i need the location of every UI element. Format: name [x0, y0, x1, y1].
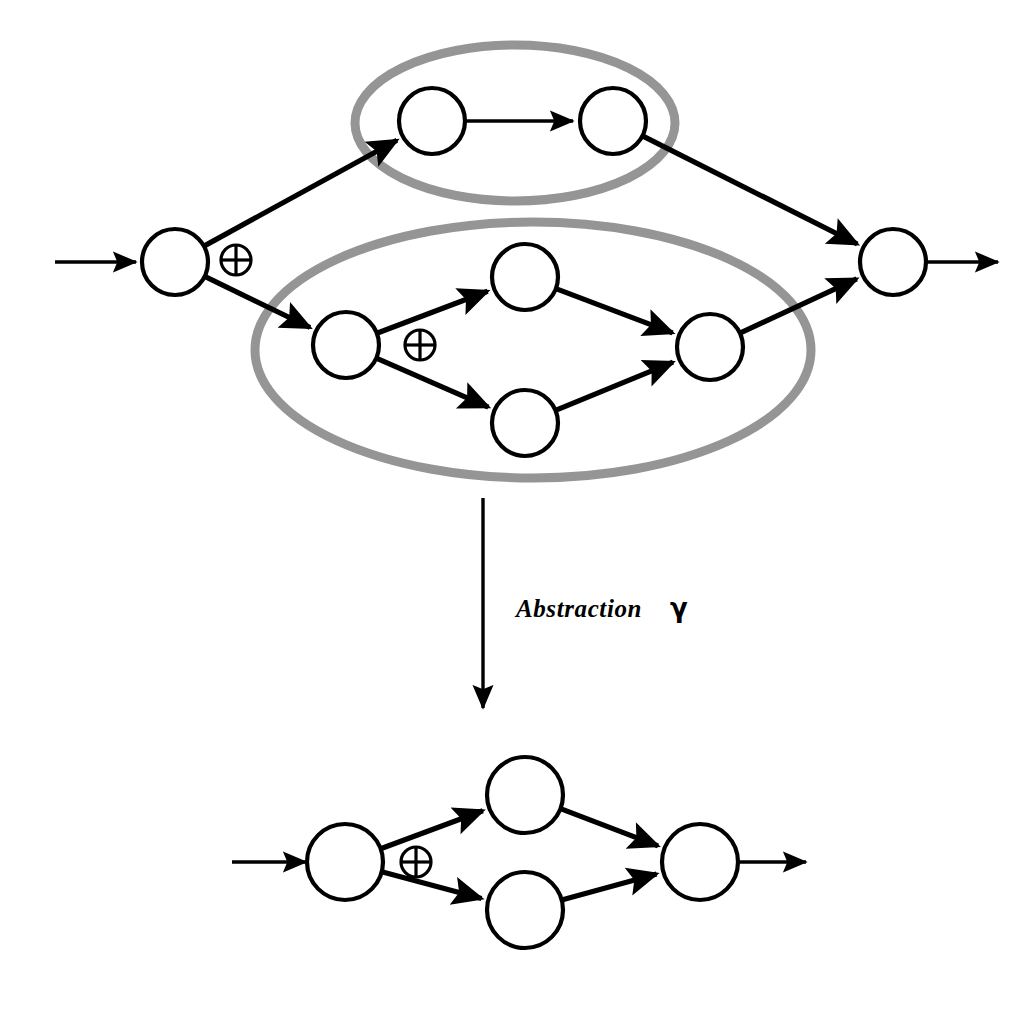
- abstract-graph-xor-markers: [401, 847, 431, 877]
- concrete-node-sub-source-n_b_src[interactable]: [313, 312, 379, 378]
- abstract-edge-a_dn-to-a_snk: [562, 874, 657, 900]
- concrete-node-task-n_b_up[interactable]: [492, 244, 558, 310]
- abstract-graph-nodes: [307, 757, 738, 948]
- abstract-node-sink-a_snk[interactable]: [662, 824, 738, 900]
- abstract-edge-a_src-to-a_dn: [382, 872, 482, 899]
- abstract-node-task-a_up[interactable]: [487, 757, 563, 833]
- abstract-node-task-a_dn[interactable]: [487, 872, 563, 948]
- concrete-xor-split-marker: [405, 330, 435, 360]
- concrete-node-task-n_t2[interactable]: [580, 88, 646, 154]
- concrete-edge-n_b_dn-to-n_b_jn: [556, 362, 673, 410]
- abstraction-gamma-symbol: γ: [670, 593, 688, 623]
- concrete-graph-nodes: [142, 88, 926, 456]
- abstract-xor-split-marker: [401, 847, 431, 877]
- abstraction-figure: Abstractionγ: [0, 0, 1036, 1016]
- concrete-node-sub-sink-n_b_jn[interactable]: [677, 314, 743, 380]
- abstract-edge-a_src-to-a_up: [381, 811, 483, 849]
- concrete-edge-n_b_jn-to-n_snk: [740, 279, 857, 333]
- concrete-edge-n_b_src-to-n_b_dn: [376, 358, 488, 407]
- abstract-node-source-a_src[interactable]: [307, 824, 383, 900]
- concrete-node-task-n_b_dn[interactable]: [492, 390, 558, 456]
- diagram-canvas: Abstractionγ: [0, 0, 1036, 1016]
- concrete-node-source-n_src[interactable]: [142, 229, 208, 295]
- concrete-edge-n_b_src-to-n_b_up: [377, 291, 488, 333]
- abstraction-label: Abstraction: [514, 595, 642, 622]
- abstract-edge-a_up-to-a_snk: [560, 809, 657, 846]
- concrete-node-sink-n_snk[interactable]: [860, 229, 926, 295]
- concrete-edge-n_b_up-to-n_b_jn: [556, 289, 673, 333]
- concrete-xor-split-marker: [221, 245, 251, 275]
- concrete-edge-n_t2-to-n_snk: [642, 136, 857, 244]
- concrete-edge-n_src-to-n_t1: [204, 140, 397, 246]
- concrete-node-task-n_t1[interactable]: [399, 88, 465, 154]
- abstraction-transform: Abstractionγ: [483, 498, 688, 708]
